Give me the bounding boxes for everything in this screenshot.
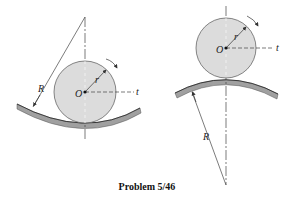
- right-figure: R t r O: [175, 6, 279, 185]
- label-r-right: r: [234, 31, 238, 42]
- convex-track: [175, 80, 278, 99]
- rotation-arrow-icon: [247, 16, 258, 26]
- label-r-left: r: [95, 74, 99, 85]
- figure-caption: Problem 5/46: [119, 181, 176, 192]
- label-t-left: t: [136, 86, 139, 97]
- label-t-right: t: [276, 42, 279, 53]
- center-point: [224, 46, 227, 49]
- center-point: [83, 90, 86, 93]
- track-radius-arrow: [34, 95, 41, 106]
- label-R-left: R: [37, 83, 44, 94]
- track-radius-arrow: [193, 92, 197, 102]
- label-O-right: O: [216, 44, 223, 55]
- diagram-canvas: R t r O R t r: [0, 0, 294, 209]
- label-O-left: O: [75, 88, 82, 99]
- left-figure: R t r O: [17, 17, 141, 139]
- label-R-right: R: [202, 131, 209, 142]
- rotation-arrow-icon: [106, 59, 117, 68]
